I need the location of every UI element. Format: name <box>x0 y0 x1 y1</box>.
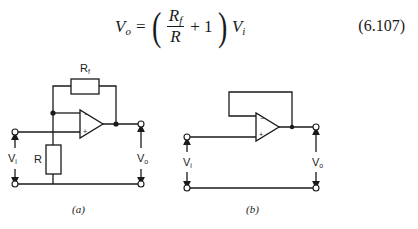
vi-label-a: Vi <box>8 152 17 165</box>
input-terminal-a <box>12 129 18 135</box>
output-terminal-b <box>313 124 319 130</box>
ground-terminal-b-out <box>313 185 319 191</box>
output-terminal-a <box>138 121 144 127</box>
junction-dot-a-input <box>50 110 55 115</box>
junction-dot-a-output <box>113 121 118 126</box>
vo-label-b: Vo <box>312 156 323 169</box>
plus-sign-b: + <box>259 131 263 138</box>
minus-sign-a: − <box>84 111 88 118</box>
junction-dot-b-output <box>290 125 294 129</box>
rf-label: Rf <box>80 62 90 75</box>
minus-sign-b: − <box>260 115 264 122</box>
ground-terminal-a-out <box>138 181 144 187</box>
input-terminal-b <box>184 134 190 140</box>
vo-label-a: Vo <box>137 152 148 165</box>
plus-sign-a: + <box>83 128 87 135</box>
circuit-diagrams: − + Rf R Vi Vo (a) − + Vi Vo (b) <box>0 0 418 229</box>
feedback-wire-a-right <box>99 86 116 124</box>
caption-b: (b) <box>246 203 259 216</box>
ground-resistor-r <box>46 145 61 174</box>
caption-a: (a) <box>72 203 85 216</box>
vi-label-b: Vi <box>183 156 192 169</box>
feedback-resistor-rf <box>71 79 99 94</box>
circuit-a-non-inverting-amplifier <box>15 79 141 184</box>
circuit-b-voltage-follower <box>187 92 316 188</box>
ground-terminal-b-in <box>184 185 190 191</box>
r-label: R <box>34 153 42 165</box>
ground-terminal-a-in <box>12 181 18 187</box>
feedback-wire-a <box>53 86 71 113</box>
